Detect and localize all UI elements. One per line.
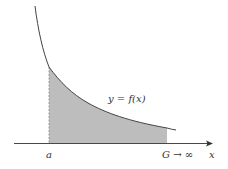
lower-bound-label: a bbox=[46, 150, 52, 160]
integral-diagram bbox=[0, 0, 228, 169]
x-axis-label: x bbox=[209, 150, 215, 160]
upper-bound-label: G → ∞ bbox=[162, 150, 193, 160]
curve-label: y = f(x) bbox=[108, 94, 146, 104]
shaded-area bbox=[49, 67, 167, 143]
